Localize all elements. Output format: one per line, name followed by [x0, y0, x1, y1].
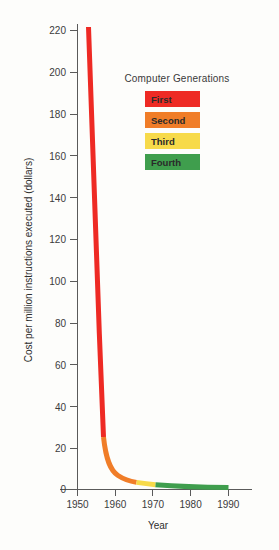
- curve-segment-first: [89, 27, 104, 437]
- y-tick-label: 200: [49, 67, 66, 78]
- y-tick-label: 40: [55, 402, 67, 413]
- legend-label-fourth: Fourth: [151, 157, 181, 168]
- x-tick-label: 1980: [179, 499, 202, 510]
- y-axis-tick-labels: 220 200 180 160 140 120 100 80 60 40 20 …: [49, 25, 66, 495]
- legend-item-fourth[interactable]: Fourth: [145, 154, 200, 170]
- y-axis-title: Cost per million instructions executed (…: [23, 158, 34, 363]
- legend-item-third[interactable]: Third: [145, 133, 200, 149]
- y-tick-label: 80: [55, 318, 67, 329]
- legend-item-first[interactable]: First: [145, 91, 200, 107]
- y-tick-label: 120: [49, 234, 66, 245]
- chart-page: 220 200 180 160 140 120 100 80 60 40 20 …: [0, 0, 279, 550]
- legend-label-second: Second: [151, 115, 186, 126]
- legend-label-third: Third: [151, 136, 175, 147]
- y-axis-ticks: [70, 31, 77, 490]
- legend-item-second[interactable]: Second: [145, 112, 200, 128]
- x-axis-title: Year: [148, 520, 169, 531]
- legend-label-first: First: [151, 94, 172, 105]
- x-axis-tick-labels: 1950 1960 1970 1980 1990: [66, 499, 239, 510]
- legend-title: Computer Generations: [124, 73, 229, 84]
- x-tick-label: 1960: [104, 499, 127, 510]
- y-tick-label: 180: [49, 109, 66, 120]
- y-tick-label: 140: [49, 193, 66, 204]
- y-tick-label: 160: [49, 151, 66, 162]
- curve-segment-second: [104, 437, 137, 482]
- y-tick-label: 0: [60, 484, 66, 495]
- y-tick-label: 20: [55, 443, 67, 454]
- legend: Computer Generations First Second Third …: [124, 73, 229, 170]
- curve-segment-fourth: [156, 485, 229, 488]
- y-tick-label: 100: [49, 276, 66, 287]
- x-tick-label: 1990: [217, 499, 240, 510]
- x-tick-label: 1950: [66, 499, 89, 510]
- x-axis-ticks: [78, 490, 229, 497]
- cost-per-mips-line-chart: 220 200 180 160 140 120 100 80 60 40 20 …: [0, 0, 279, 550]
- y-tick-label: 220: [49, 25, 66, 36]
- x-tick-label: 1970: [142, 499, 165, 510]
- curve-segment-third: [137, 482, 156, 484]
- y-tick-label: 60: [55, 360, 67, 371]
